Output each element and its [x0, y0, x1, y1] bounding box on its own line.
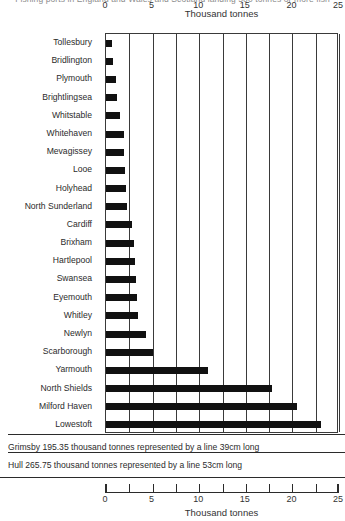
bottom-tick-0: 0	[102, 494, 107, 504]
bar-looe	[106, 167, 125, 174]
category-label-brightlingsea: Brightlingsea	[42, 92, 92, 102]
bar-yarmouth	[106, 367, 208, 374]
category-label-north-sunderland: North Sunderland	[25, 201, 92, 211]
category-label-swansea: Swansea	[57, 273, 92, 283]
top-tick-25: 25	[333, 0, 343, 10]
bar-hartlepool	[106, 258, 135, 265]
category-label-scarborough: Scarborough	[43, 346, 92, 356]
category-label-tollesbury: Tollesbury	[53, 37, 92, 47]
bottom-tick-5: 5	[149, 494, 154, 504]
top-tick-20: 20	[286, 0, 296, 10]
category-label-lowestoft: Lowestoft	[55, 419, 92, 429]
top-tick-15: 15	[240, 0, 250, 10]
category-label-plymouth: Plymouth	[56, 73, 92, 83]
category-label-whitstable: Whitstable	[52, 110, 92, 120]
top-tick-5: 5	[149, 0, 154, 10]
bar-brightlingsea	[106, 94, 117, 101]
category-label-bridlington: Bridlington	[51, 55, 92, 65]
bottom-axis-tick-labels: 0510152025	[105, 494, 338, 506]
gridline	[292, 34, 293, 432]
bar-mevagissey	[106, 149, 124, 156]
category-label-yarmouth: Yarmouth	[55, 364, 92, 374]
category-label-looe: Looe	[73, 164, 92, 174]
bar-whitley	[106, 312, 138, 319]
bottom-scale-ruler	[105, 484, 338, 493]
ruler-tick	[129, 484, 130, 493]
ruler-tick	[106, 484, 107, 493]
gridline	[269, 34, 270, 432]
bar-north-shields	[106, 385, 272, 392]
category-label-hartlepool: Hartlepool	[53, 255, 92, 265]
bottom-tick-15: 15	[240, 494, 250, 504]
category-axis-labels: TollesburyBridlingtonPlymouthBrightlings…	[0, 33, 100, 433]
ruler-tick	[199, 484, 200, 493]
ruler-tick	[292, 484, 293, 493]
footnotes: Grimsby 195.35 thousand tonnes represent…	[0, 434, 345, 478]
gridline	[339, 34, 340, 432]
ruler-tick	[246, 484, 247, 493]
ruler-tick	[316, 484, 317, 493]
top-tick-0: 0	[102, 0, 107, 10]
category-label-whitley: Whitley	[64, 310, 92, 320]
bar-eyemouth	[106, 294, 137, 301]
ruler-tick	[153, 484, 154, 493]
category-label-milford-haven: Milford Haven	[39, 401, 92, 411]
category-label-mevagissey: Mevagissey	[47, 146, 92, 156]
footnote-1: Grimsby 195.35 thousand tonnes represent…	[8, 434, 345, 452]
ruler-tick	[176, 484, 177, 493]
category-label-north-shields: North Shields	[40, 383, 92, 393]
bar-bridlington	[106, 58, 113, 65]
category-label-eyemouth: Eyemouth	[53, 292, 92, 302]
bottom-tick-10: 10	[193, 494, 203, 504]
bar-swansea	[106, 276, 136, 283]
gridline	[223, 34, 224, 432]
bar-whitehaven	[106, 131, 124, 138]
bar-whitstable	[106, 112, 120, 119]
ruler-tick	[223, 484, 224, 493]
bottom-tick-25: 25	[333, 494, 343, 504]
category-label-cardiff: Cardiff	[67, 219, 92, 229]
category-label-whitehaven: Whitehaven	[47, 128, 92, 138]
category-label-newlyn: Newlyn	[64, 328, 92, 338]
footnote-2: Hull 265.75 thousand tonnes represented …	[8, 452, 345, 470]
gridline	[316, 34, 317, 432]
ruler-tick	[269, 484, 270, 493]
category-label-brixham: Brixham	[60, 237, 92, 247]
top-axis-tick-labels: 0510152025	[105, 0, 338, 11]
bar-north-sunderland	[106, 203, 127, 210]
bar-cardiff	[106, 221, 132, 228]
bar-tollesbury	[106, 40, 112, 47]
bottom-tick-20: 20	[286, 494, 296, 504]
bar-lowestoft	[106, 421, 321, 428]
ruler-tick	[338, 484, 339, 493]
bar-scarborough	[106, 349, 153, 356]
category-label-holyhead: Holyhead	[56, 183, 92, 193]
bar-milford-haven	[106, 403, 297, 410]
bar-holyhead	[106, 185, 126, 192]
top-tick-10: 10	[193, 0, 203, 10]
footnote-divider	[0, 477, 345, 478]
gridline	[246, 34, 247, 432]
bottom-axis-title: Thousand tonnes	[105, 507, 338, 518]
bar-newlyn	[106, 331, 146, 338]
bar-brixham	[106, 240, 134, 247]
bar-plymouth	[106, 76, 116, 83]
chart-plot-area	[105, 33, 338, 433]
